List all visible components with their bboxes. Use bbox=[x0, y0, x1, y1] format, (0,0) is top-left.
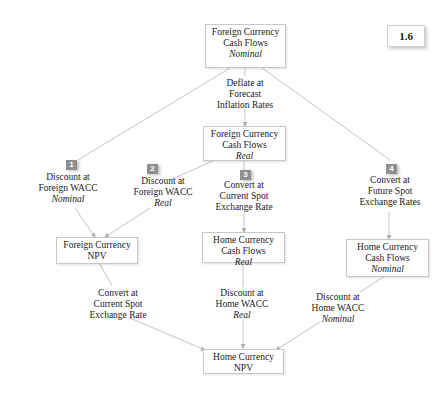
node-label: Cash Flows bbox=[204, 140, 285, 151]
edge-text: Current Spot bbox=[78, 299, 158, 310]
node-label: Home Currency bbox=[347, 242, 428, 253]
path-number-badge-4: 4 bbox=[386, 164, 397, 174]
edge-label-path-4: Convert at Future Spot Exchange Rates bbox=[350, 175, 430, 208]
node-label: Foreign Currency bbox=[57, 240, 137, 251]
node-qualifier: Nominal bbox=[347, 264, 428, 275]
node-label: NPV bbox=[204, 363, 283, 374]
node-label: NPV bbox=[57, 251, 137, 262]
path-number-badge-2: 2 bbox=[147, 164, 158, 174]
edge-label-home-wacc-real: Discount at Home WACC Real bbox=[202, 288, 282, 321]
edge-qualifier: Real bbox=[202, 310, 282, 321]
edge-text: Current Spot bbox=[204, 191, 284, 202]
edge-label-convert-current-spot: Convert at Current Spot Exchange Rate bbox=[78, 288, 158, 321]
edge-text: Discount at bbox=[298, 292, 378, 303]
edge-text: Inflation Rates bbox=[205, 100, 285, 111]
edge-text: Exchange Rates bbox=[350, 197, 430, 208]
edge-text: Discount at bbox=[202, 288, 282, 299]
node-qualifier: Real bbox=[204, 151, 285, 162]
edge-text: Home WACC bbox=[202, 299, 282, 310]
edge-qualifier: Real bbox=[123, 198, 203, 209]
node-label: Cash Flows bbox=[206, 38, 285, 49]
edge-text: Convert at bbox=[350, 175, 430, 186]
node-label: Cash Flows bbox=[203, 246, 284, 257]
edge-label-deflate: Deflate at Forecast Inflation Rates bbox=[205, 78, 285, 111]
node-qualifier: Nominal bbox=[206, 49, 285, 60]
node-home-cash-flows-real: Home Currency Cash Flows Real bbox=[202, 232, 285, 263]
edge-label-path-2: Discount at Foreign WACC Real bbox=[123, 176, 203, 209]
node-foreign-cash-flows-real: Foreign Currency Cash Flows Real bbox=[203, 126, 286, 161]
edge-label-home-wacc-nominal: Discount at Home WACC Nominal bbox=[298, 292, 378, 325]
node-label: Foreign Currency bbox=[204, 129, 285, 140]
path-number-badge-1: 1 bbox=[66, 160, 77, 170]
edge-text: Deflate at bbox=[205, 78, 285, 89]
edge-label-path-1: Discount at Foreign WACC Nominal bbox=[28, 172, 108, 205]
edge-text: Discount at bbox=[28, 172, 108, 183]
edge-text: Future Spot bbox=[350, 186, 430, 197]
node-qualifier: Real bbox=[203, 257, 284, 268]
node-label: Home Currency bbox=[204, 352, 283, 363]
edge-text: Convert at bbox=[204, 180, 284, 191]
edge-qualifier: Nominal bbox=[28, 194, 108, 205]
edge-text: Home WACC bbox=[298, 303, 378, 314]
edge-qualifier: Nominal bbox=[298, 314, 378, 325]
figure-number-badge: 1.6 bbox=[387, 25, 425, 47]
edge-text: Foreign WACC bbox=[28, 183, 108, 194]
edge-text: Exchange Rate bbox=[78, 310, 158, 321]
node-label: Foreign Currency bbox=[206, 27, 285, 38]
edge-text: Exchange Rate bbox=[204, 202, 284, 213]
node-label: Home Currency bbox=[203, 235, 284, 246]
edge-text: Convert at bbox=[78, 288, 158, 299]
node-foreign-cash-flows-nominal: Foreign Currency Cash Flows Nominal bbox=[205, 24, 286, 68]
node-home-currency-npv: Home Currency NPV bbox=[203, 349, 284, 374]
path-number-badge-3: 3 bbox=[240, 170, 251, 180]
edge-text: Discount at bbox=[123, 176, 203, 187]
node-home-cash-flows-nominal: Home Currency Cash Flows Nominal bbox=[346, 239, 429, 277]
edge-label-path-3: Convert at Current Spot Exchange Rate bbox=[204, 180, 284, 213]
node-foreign-currency-npv: Foreign Currency NPV bbox=[56, 237, 138, 264]
edge-text: Forecast bbox=[205, 89, 285, 100]
edge-text: Foreign WACC bbox=[123, 187, 203, 198]
node-label: Cash Flows bbox=[347, 253, 428, 264]
